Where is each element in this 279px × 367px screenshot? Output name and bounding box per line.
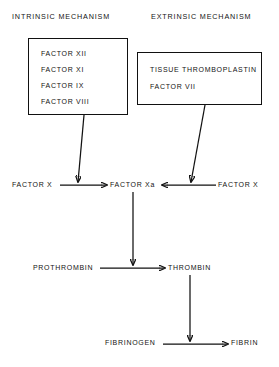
- node-fibrinogen: FIBRINOGEN: [105, 339, 156, 346]
- node-thrombin: THROMBIN: [168, 264, 211, 271]
- intrinsic-factor-ix: FACTOR IX: [41, 82, 84, 89]
- edge-intrinsic-to-xa: [78, 115, 84, 182]
- intrinsic-factor-xi: FACTOR XI: [41, 66, 84, 73]
- heading-intrinsic-mechanism: INTRINSIC MECHANISM: [12, 12, 110, 21]
- node-prothrombin: PROTHROMBIN: [33, 264, 93, 271]
- node-factor-x-right: FACTOR X: [218, 181, 258, 188]
- coagulation-cascade-diagram: INTRINSIC MECHANISM EXTRINSIC MECHANISM …: [0, 0, 279, 367]
- heading-extrinsic-mechanism: EXTRINSIC MECHANISM: [151, 12, 251, 21]
- edge-extrinsic-to-xa: [191, 105, 205, 182]
- extrinsic-factors-box: TISSUE THROMBOPLASTIN FACTOR VII: [137, 52, 262, 105]
- node-fibrin: FIBRIN: [231, 339, 258, 346]
- node-factor-x-left: FACTOR X: [12, 181, 52, 188]
- node-factor-xa: FACTOR Xa: [110, 181, 155, 188]
- intrinsic-factor-xii: FACTOR XII: [41, 50, 87, 57]
- intrinsic-factors-box: FACTOR XII FACTOR XI FACTOR IX FACTOR VI…: [28, 38, 128, 115]
- extrinsic-factor-vii: FACTOR VII: [150, 83, 196, 90]
- extrinsic-tissue-thromboplastin: TISSUE THROMBOPLASTIN: [150, 66, 257, 73]
- intrinsic-factor-viii: FACTOR VIII: [41, 98, 89, 105]
